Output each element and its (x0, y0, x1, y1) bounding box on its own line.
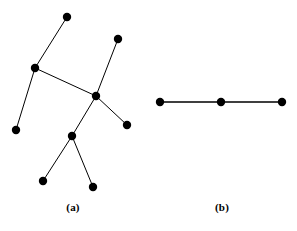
panel-a-caption: (a) (66, 201, 79, 213)
graph-vertex (68, 132, 76, 140)
graph-vertex (114, 35, 122, 43)
figure-container: (a) (b) (0, 0, 297, 231)
graph-figure-canvas (0, 0, 297, 231)
graph-vertex (39, 177, 47, 185)
graph-vertex (31, 64, 39, 72)
graph-edge (35, 68, 96, 96)
graph-panel-b (156, 98, 286, 106)
graph-vertex (89, 183, 97, 191)
graph-edge (35, 17, 67, 68)
graph-vertex (217, 98, 225, 106)
graph-vertex (156, 98, 164, 106)
graph-edge (72, 96, 96, 136)
graph-edge (96, 39, 118, 96)
graph-edge (96, 96, 127, 125)
graph-panel-a (12, 13, 131, 191)
graph-edge (16, 68, 35, 130)
graph-edge (72, 136, 93, 187)
graph-vertex (12, 126, 20, 134)
graph-vertex (123, 121, 131, 129)
graph-edge (43, 136, 72, 181)
graph-vertex (92, 92, 100, 100)
graph-vertex (278, 98, 286, 106)
panel-b-caption: (b) (215, 201, 229, 213)
graph-vertex (63, 13, 71, 21)
